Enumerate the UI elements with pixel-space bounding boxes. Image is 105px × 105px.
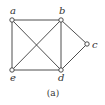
node-label-b: b	[59, 5, 65, 16]
node-label-e: e	[10, 72, 16, 83]
node-a	[10, 18, 14, 22]
edges-group	[12, 20, 87, 70]
node-label-d: d	[58, 72, 64, 83]
node-label-a: a	[10, 5, 16, 16]
figure-caption: (a)	[47, 88, 59, 98]
graph-diagram: abcde (a)	[0, 0, 105, 105]
edge-b-c	[61, 20, 87, 44]
nodes-group	[10, 18, 89, 72]
node-label-c: c	[92, 39, 98, 50]
edge-c-d	[61, 44, 87, 70]
node-b	[59, 18, 63, 22]
node-c	[85, 42, 89, 46]
